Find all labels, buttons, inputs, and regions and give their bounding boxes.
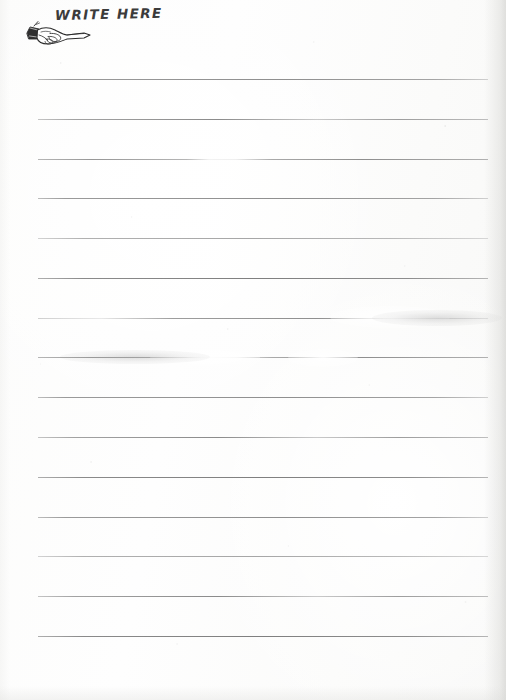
ruled-line-15[interactable] [38, 636, 488, 637]
ruled-line-13[interactable] [38, 556, 488, 557]
ruled-line-4[interactable] [38, 198, 488, 199]
ruled-line-3[interactable] [38, 159, 488, 160]
ruled-line-2[interactable] [38, 119, 488, 120]
write-here-label: WRITE HERE [55, 4, 163, 24]
ruled-line-12[interactable] [38, 517, 488, 518]
ruled-line-10[interactable] [38, 437, 488, 438]
ruled-line-9[interactable] [38, 397, 488, 398]
ruled-lines-area[interactable] [0, 0, 506, 700]
ruled-line-11[interactable] [38, 477, 488, 478]
ruled-line-6[interactable] [38, 278, 488, 279]
pointing-hand-icon [24, 20, 94, 51]
ruled-line-14[interactable] [38, 596, 488, 597]
ruled-line-8[interactable] [38, 357, 488, 358]
ruled-line-5[interactable] [38, 238, 488, 239]
notepaper-page: WRITE HERE [0, 0, 506, 700]
header-block: WRITE HERE [0, 0, 170, 56]
ruled-line-1[interactable] [38, 79, 488, 80]
ruled-line-7[interactable] [38, 318, 488, 319]
